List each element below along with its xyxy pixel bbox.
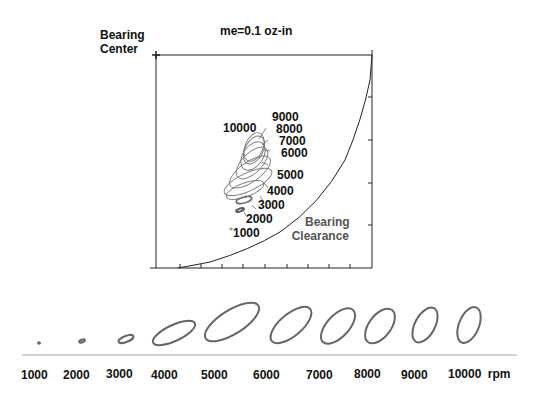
rpm-unit-label: rpm xyxy=(488,367,511,381)
speed-label-8000: 8000 xyxy=(354,367,381,381)
orbit-label-10000: 10000 xyxy=(223,121,256,135)
orbit-label-4000: 4000 xyxy=(267,184,294,198)
speed-label-4000: 4000 xyxy=(151,368,178,382)
speed-label-3000: 3000 xyxy=(106,367,133,381)
speed-label-5000: 5000 xyxy=(201,368,228,382)
orbit-label-5000: 5000 xyxy=(277,168,304,182)
speed-label-10000-value: 10000 xyxy=(448,367,481,381)
speed-label-6000: 6000 xyxy=(253,368,280,382)
orbit-label-9000: 9000 xyxy=(272,110,299,124)
bearing-center-marker xyxy=(152,51,160,59)
bearing-center-label: Bearing Center xyxy=(100,28,145,56)
orbit-label-2000: 2000 xyxy=(246,212,273,226)
orbit-label-8000: 8000 xyxy=(276,122,303,136)
bearing-clearance-label: Bearing Clearance xyxy=(291,215,350,243)
bearing-clearance-line2: Clearance xyxy=(291,229,350,243)
speed-label-9000: 9000 xyxy=(401,368,428,382)
speed-label-1000: 1000 xyxy=(21,368,48,382)
speed-label-10000: 10000 rpm xyxy=(448,367,510,381)
bearing-clearance-line1: Bearing xyxy=(291,215,350,229)
bearing-center-line2: Center xyxy=(100,42,145,56)
orbit-label-3000: 3000 xyxy=(258,198,285,212)
speed-row-orbits xyxy=(38,295,485,350)
orbit-label-7000: 7000 xyxy=(279,134,306,148)
speed-label-7000: 7000 xyxy=(306,368,333,382)
speed-label-2000: 2000 xyxy=(63,368,90,382)
bearing-center-line1: Bearing xyxy=(100,28,145,42)
chart-title: me=0.1 oz-in xyxy=(220,24,292,38)
orbit-label-6000: 6000 xyxy=(281,146,308,160)
orbit-label-1000: 1000 xyxy=(233,226,260,240)
